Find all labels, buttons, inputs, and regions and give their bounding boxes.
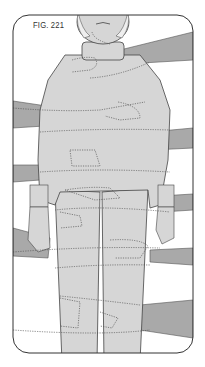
illustration-svg [0, 0, 205, 367]
torso [38, 55, 170, 208]
figure-label: FIG. 221 [33, 20, 64, 30]
